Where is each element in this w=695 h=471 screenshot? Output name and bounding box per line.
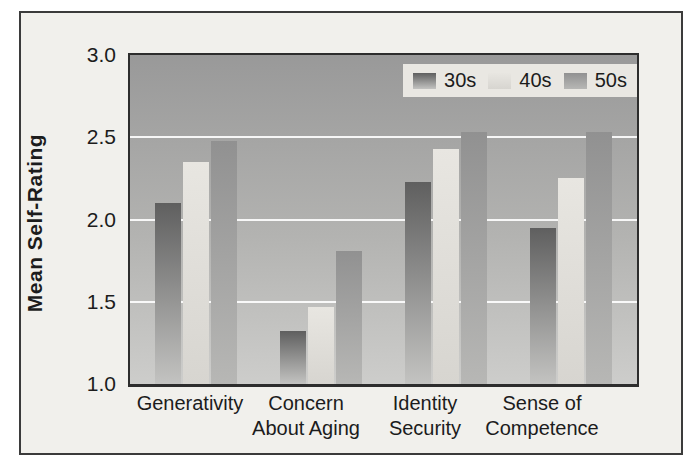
bar-group-1 (155, 55, 237, 384)
y-tick-label-2.5: 2.5 (54, 124, 116, 150)
bar-50s-4 (586, 132, 612, 384)
bar-30s-3 (405, 182, 431, 384)
figure: Mean Self-Rating 3.02.52.01.51.0 30s40s5… (0, 0, 695, 471)
bar-30s-2 (280, 331, 306, 384)
bar-40s-1 (183, 162, 209, 384)
bar-50s-1 (211, 141, 237, 384)
y-tick-label-2.0: 2.0 (54, 207, 116, 233)
x-category-label-4: Sense ofCompetence (442, 391, 642, 441)
bar-50s-3 (461, 132, 487, 384)
legend-swatch-40s (488, 73, 511, 89)
bar-group-4 (530, 55, 612, 384)
bar-30s-4 (530, 228, 556, 384)
bar-40s-2 (308, 307, 334, 384)
bar-40s-3 (433, 149, 459, 384)
bar-30s-1 (155, 203, 181, 384)
y-tick-label-3.0: 3.0 (54, 42, 116, 68)
y-axis-title: Mean Self-Rating (23, 98, 47, 348)
bar-group-3 (405, 55, 487, 384)
bar-group-2 (280, 55, 362, 384)
bar-40s-4 (558, 178, 584, 384)
plot-area: 30s40s50s (128, 53, 639, 387)
y-tick-label-1.5: 1.5 (54, 289, 116, 315)
bar-50s-2 (336, 251, 362, 384)
